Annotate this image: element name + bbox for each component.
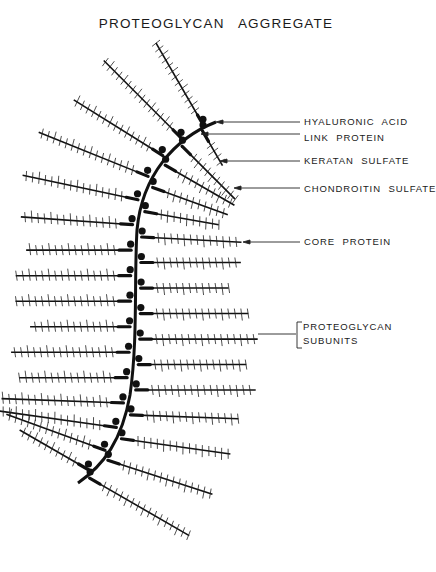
- proteoglycan-subunits: [0, 40, 258, 540]
- label-core-protein: CORE PROTEIN: [304, 236, 391, 247]
- label-chondroitin-sulfate: CHONDROITIN SULFATE: [304, 183, 436, 194]
- label-proteoglycan-subunits-line1: PROTEOGLYCAN: [303, 320, 392, 334]
- label-proteoglycan-subunits: PROTEOGLYCAN SUBUNITS: [303, 320, 392, 348]
- label-proteoglycan-subunits-line2: SUBUNITS: [303, 334, 392, 348]
- label-keratan-sulfate: KERATAN SULFATE: [304, 155, 409, 166]
- label-hyaluronic-acid: HYALURONIC ACID: [304, 116, 408, 127]
- label-link-protein: LINK PROTEIN: [304, 132, 385, 143]
